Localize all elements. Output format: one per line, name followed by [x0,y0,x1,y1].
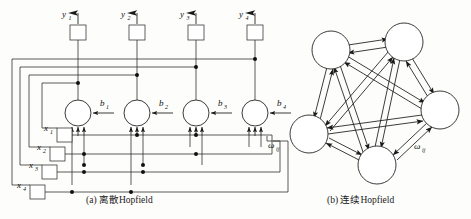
neuron-4 [242,100,268,126]
caption-panel-a: (a) 离散Hopfield [86,194,153,206]
input-block-x1 [57,128,72,142]
weight-bus-verticals [72,136,261,185]
panel-b-continuous-hopfield: ω ij (b) 连续Hopfield [290,23,459,206]
input-block-x4 [30,185,45,199]
input-blocks [30,128,72,199]
bias-label-b1: b [100,98,105,108]
delay-block-2 [129,25,145,40]
output-label-y1-sub: 1 [69,15,72,21]
hopfield-figure-svg: y 1 y 2 y 3 y 4 [0,0,471,219]
input-label-x2-sub: 2 [43,148,46,154]
graph-node-1 [312,31,350,69]
feedback-junction-dots [76,57,257,85]
distribution-junction-dots [70,133,198,194]
bias-label-b1-sub: 1 [106,104,109,110]
output-label-y4: y [238,9,243,19]
panel-a-discrete-hopfield: y 1 y 2 y 3 y 4 [12,9,291,206]
output-arrows [78,13,255,24]
graph-node-4 [358,146,396,184]
input-label-x3: x [28,160,33,170]
output-label-y1: y [61,9,66,19]
graph-node-5 [290,115,328,153]
delay-block-4 [247,25,263,40]
input-label-x1-sub: 1 [50,129,53,135]
weight-label-omega-a-sub: ij [276,146,280,152]
output-label-y3-sub: 3 [186,15,190,21]
input-label-x1: x [43,123,48,133]
output-label-y4-sub: 4 [246,15,249,21]
neuron-1 [65,100,91,126]
input-label-x4: x [16,180,21,190]
graph-node-3 [421,91,459,129]
output-labels: y 1 y 2 y 3 y 4 [61,9,249,21]
bias-label-b2-sub: 2 [165,104,168,110]
weight-label-omega-b: ω [414,141,420,151]
bias-label-b3: b [218,98,223,108]
bias-label-b4-sub: 4 [283,104,286,110]
weight-label-panel-b: ω ij [414,141,426,153]
neuron-3 [183,100,209,126]
input-label-x2: x [36,142,41,152]
bias-label-b3-sub: 3 [223,104,227,110]
input-distribution-rows [45,135,288,192]
input-label-x3-sub: 3 [34,166,38,172]
graph-nodes [290,23,459,184]
weight-label-omega-b-sub: ij [422,147,426,153]
delay-blocks [70,25,263,40]
bias-label-b2: b [159,98,164,108]
neuron-2 [124,100,150,126]
output-label-y3: y [179,9,184,19]
input-block-x2 [50,147,65,161]
input-block-x3 [42,165,57,179]
delay-block-3 [188,25,204,40]
output-label-y2-sub: 2 [128,15,131,21]
output-label-y2: y [120,9,125,19]
weight-label-omega-a: ω [268,140,274,150]
input-labels: x 1 x 2 x 3 x 4 [16,123,53,192]
caption-panel-b: (b) 连续Hopfield [327,194,394,206]
feedback-pickup-lines [12,59,255,83]
delay-block-1 [70,25,86,40]
neuron-output-trunks [78,40,255,101]
weight-label-panel-a: ω ij [268,140,280,152]
graph-node-2 [385,23,423,61]
input-label-x4-sub: 4 [23,186,26,192]
figure-container: y 1 y 2 y 3 y 4 [0,0,471,219]
bias-label-b4: b [277,98,282,108]
